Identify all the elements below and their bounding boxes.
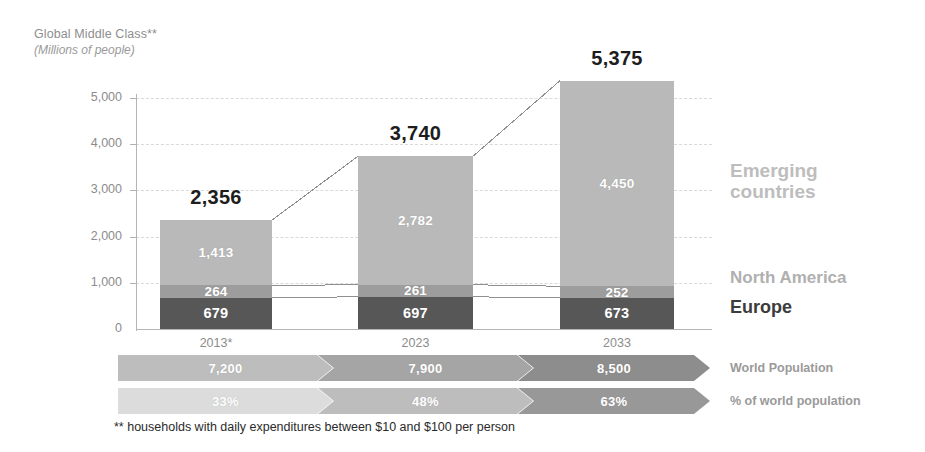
bar-segment-europe-2023[interactable]: 697 — [358, 297, 473, 329]
bar-total-2023: 3,740 — [358, 122, 473, 145]
chart-container: Global Middle Class** (Millions of peopl… — [0, 0, 925, 452]
chart-subtitle: (Millions of people) — [34, 42, 157, 58]
bar-segment-north-america-2013[interactable]: 264 — [160, 285, 272, 297]
ribbon-percent-value-2013: 33% — [212, 394, 239, 409]
bar-segment-emerging-2013[interactable]: 1,413 — [160, 220, 272, 285]
y-tick-1000 — [130, 283, 137, 284]
x-axis-label-2033: 2033 — [560, 336, 674, 350]
chart-title: Global Middle Class** — [34, 26, 157, 42]
ribbon-percent-2033[interactable]: 63% — [518, 388, 710, 414]
ribbon-world-population-value-2023: 7,900 — [408, 361, 442, 376]
ribbon-label-percent-world-population: % of world population — [730, 394, 861, 408]
ribbon-percent-2023[interactable]: 48% — [318, 388, 533, 414]
bar-segment-europe-2013[interactable]: 679 — [160, 298, 272, 329]
ribbon-percent-value-2033: 63% — [601, 394, 628, 409]
y-axis-label-3000: 3,000 — [52, 182, 122, 196]
bar-segment-north-america-2023[interactable]: 261 — [358, 285, 473, 297]
legend-item-emerging-countries: Emerging countries — [730, 160, 818, 203]
world-population-ribbon: 7,200 7,900 8,500 — [118, 355, 710, 381]
bar-segment-value-emerging-2033: 4,450 — [600, 176, 635, 191]
ribbon-percent-2013[interactable]: 33% — [118, 388, 333, 414]
legend-item-europe: Europe — [730, 297, 792, 317]
bar-2013[interactable]: 1,413 264 679 — [160, 220, 272, 329]
x-axis-label-2023: 2023 — [358, 336, 473, 350]
bar-segment-europe-2033[interactable]: 673 — [560, 298, 674, 329]
bar-segment-value-europe-2023: 697 — [403, 305, 428, 321]
y-tick-5000 — [130, 98, 137, 99]
bar-segment-emerging-2023[interactable]: 2,782 — [358, 156, 473, 285]
bar-segment-value-emerging-2023: 2,782 — [398, 213, 433, 228]
ribbon-label-world-population: World Population — [730, 361, 833, 375]
y-axis-label-0: 0 — [52, 321, 122, 335]
y-tick-2000 — [130, 237, 137, 238]
bar-2023[interactable]: 2,782 261 697 — [358, 156, 473, 329]
bar-total-2033: 5,375 — [560, 47, 674, 70]
bar-2033[interactable]: 4,450 252 673 — [560, 81, 674, 329]
y-axis-label-5000: 5,000 — [52, 90, 122, 104]
bar-segment-value-europe-2013: 679 — [204, 305, 229, 321]
x-axis-label-2013: 2013* — [160, 336, 272, 350]
ribbon-world-population-value-2013: 7,200 — [208, 361, 242, 376]
chart-footnote: ** households with daily expenditures be… — [114, 420, 515, 434]
y-tick-4000 — [130, 144, 137, 145]
ribbon-world-population-2013[interactable]: 7,200 — [118, 355, 333, 381]
ribbon-world-population-2023[interactable]: 7,900 — [318, 355, 533, 381]
ribbon-world-population-value-2033: 8,500 — [597, 361, 631, 376]
chart-header: Global Middle Class** (Millions of peopl… — [34, 26, 157, 58]
bar-segment-value-emerging-2013: 1,413 — [199, 245, 234, 260]
y-axis-label-1000: 1,000 — [52, 275, 122, 289]
x-axis-line — [136, 329, 712, 330]
ribbon-world-population-2033[interactable]: 8,500 — [518, 355, 710, 381]
y-tick-3000 — [130, 190, 137, 191]
percent-world-population-ribbon: 33% 48% 63% — [118, 388, 710, 414]
y-axis-label-4000: 4,000 — [52, 136, 122, 150]
bar-segment-emerging-2033[interactable]: 4,450 — [560, 81, 674, 287]
y-axis-label-2000: 2,000 — [52, 229, 122, 243]
ribbon-percent-value-2023: 48% — [412, 394, 439, 409]
bar-segment-value-europe-2033: 673 — [605, 305, 630, 321]
bar-total-2013: 2,356 — [160, 186, 272, 209]
y-axis-line — [136, 94, 137, 331]
legend-label-emerging-line2: countries — [730, 181, 818, 202]
legend-label-emerging-line1: Emerging — [730, 160, 818, 181]
legend-item-north-america: North America — [730, 268, 847, 287]
bar-segment-north-america-2033[interactable]: 252 — [560, 286, 674, 298]
